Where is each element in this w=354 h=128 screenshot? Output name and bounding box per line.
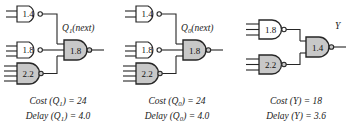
output-label-y: Y bbox=[335, 21, 342, 31]
delay-caption-y: Delay (Y) = 3.6 bbox=[265, 111, 326, 122]
cost-caption-q1: Cost (Q1) = 24 bbox=[29, 96, 86, 107]
delay-caption-q0: Delay (Q0) = 4.0 bbox=[144, 111, 210, 122]
logic-circuit-figure: 1.4 1.8 2.2 bbox=[0, 0, 354, 128]
gate-q1-b: 1.8 bbox=[6, 42, 42, 58]
gate-value: 1.8 bbox=[189, 46, 201, 56]
gate-q1-out: 1.8 bbox=[64, 40, 104, 60]
circuit-y: 1.8 2.2 1.4 Y Cost (Y) = 18 Del bbox=[246, 20, 346, 122]
gate-y-b: 2.2 bbox=[246, 55, 286, 74]
gate-value: 1.8 bbox=[141, 45, 153, 55]
gate-q0-a: 1.4 bbox=[125, 6, 161, 22]
gate-q0-out: 1.8 bbox=[183, 40, 223, 60]
gate-value: 2.2 bbox=[141, 69, 152, 79]
circuit-q1: 1.4 1.8 2.2 bbox=[4, 6, 104, 122]
gate-value: 1.8 bbox=[265, 25, 277, 35]
gate-q0-c: 2.2 bbox=[123, 63, 162, 84]
wires-q1 bbox=[42, 14, 64, 74]
output-label-q1: Q1(next) bbox=[62, 23, 94, 34]
cost-caption-y: Cost (Y) = 18 bbox=[270, 96, 322, 107]
wires-y bbox=[286, 30, 306, 65]
output-label-q0: Q0(next) bbox=[181, 23, 213, 34]
circuit-q0: 1.4 1.8 2.2 bbox=[123, 6, 223, 122]
wires-q0 bbox=[161, 14, 183, 74]
gate-value: 2.2 bbox=[265, 60, 276, 70]
gate-q1-a: 1.4 bbox=[6, 6, 42, 22]
gate-value: 1.4 bbox=[141, 9, 153, 19]
cost-caption-q0: Cost (Q0) = 24 bbox=[148, 96, 205, 107]
delay-caption-q1: Delay (Q1) = 4.0 bbox=[25, 111, 91, 122]
circuit-canvas: 1.4 1.8 2.2 bbox=[0, 0, 354, 128]
gate-q0-b: 1.8 bbox=[125, 42, 161, 58]
gate-value: 1.8 bbox=[70, 46, 82, 56]
gate-value: 1.4 bbox=[22, 9, 34, 19]
gate-y-out: 1.4 bbox=[306, 37, 346, 57]
gate-value: 1.8 bbox=[22, 45, 34, 55]
gate-value: 1.4 bbox=[312, 43, 324, 53]
gate-value: 2.2 bbox=[22, 69, 33, 79]
gate-y-a: 1.8 bbox=[246, 20, 286, 39]
gate-q1-c: 2.2 bbox=[4, 63, 43, 84]
